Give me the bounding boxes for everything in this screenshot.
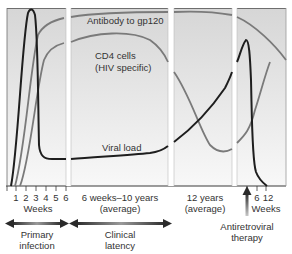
- late-duration-line2: (average): [185, 203, 226, 214]
- svg-text:3: 3: [33, 192, 38, 203]
- art-label-line1: Antiretroviral: [220, 221, 273, 232]
- clinical-latency-label-line1: Clinical: [105, 229, 136, 240]
- primary-infection-label-line2: infection: [19, 240, 54, 251]
- viral-load-label: Viral load: [102, 142, 141, 153]
- latency-duration-line2: (average): [100, 203, 141, 214]
- svg-text:6: 6: [63, 192, 68, 203]
- antibody-label: Antibody to gp120: [87, 15, 164, 26]
- svg-text:4: 4: [43, 192, 48, 203]
- art-tick-12: 12: [263, 192, 274, 203]
- svg-text:5: 5: [53, 192, 58, 203]
- svg-text:2: 2: [23, 192, 28, 203]
- svg-text:1: 1: [13, 192, 18, 203]
- cd4-label-line1: CD4 cells: [95, 50, 136, 61]
- weeks-tick-labels: 1 2 3 4 5 6: [13, 192, 68, 203]
- late-duration-line1: 12 years: [187, 192, 224, 203]
- art-label-line2: therapy: [231, 232, 263, 243]
- clinical-latency-arrow-icon: [69, 219, 172, 228]
- art-tick-6: 6: [254, 192, 259, 203]
- latency-duration-line1: 6 weeks–10 years: [82, 192, 159, 203]
- art-up-arrow-icon: [243, 186, 252, 216]
- weeks-ticks: [7, 186, 266, 191]
- clinical-latency-label-line2: latency: [105, 240, 135, 251]
- art-weeks-label: Weeks: [252, 203, 281, 214]
- primary-infection-arrow-icon: [5, 219, 69, 228]
- cd4-label-line2: (HIV specific): [95, 62, 151, 73]
- hiv-course-chart: Antibody to gp120 CD4 cells (HIV specifi…: [0, 0, 292, 254]
- primary-infection-label-line1: Primary: [21, 229, 54, 240]
- weeks-label: Weeks: [24, 203, 53, 214]
